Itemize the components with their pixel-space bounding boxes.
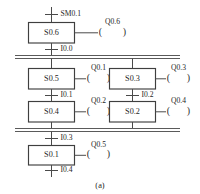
state-label-s06: S0.6 <box>44 28 59 37</box>
state-label-s02: S0.2 <box>125 107 140 116</box>
transition-i02: I0.2 <box>126 89 154 102</box>
state-block-s01: S0.1 ( ) Q0.5 <box>29 140 111 165</box>
coil-label-q04: Q0.4 <box>171 96 186 105</box>
coil-label-q02: Q0.2 <box>91 96 106 105</box>
coil-label-q05: Q0.5 <box>91 140 106 149</box>
state-block-s02: S0.2 ( ) Q0.4 <box>110 96 191 122</box>
coil-open-paren-q04: ( <box>167 105 171 117</box>
transition-sm01: SM0.1 <box>45 7 81 22</box>
transition-label-i04: I0.4 <box>61 165 73 174</box>
transition-label-sm01: SM0.1 <box>61 9 82 18</box>
coil-close-paren-q03: ) <box>187 72 190 84</box>
coil-label-q01: Q0.1 <box>91 63 106 72</box>
transition-i01: I0.1 <box>45 89 73 102</box>
coil-open-paren-q06: ( <box>99 26 103 38</box>
transition-i04: I0.4 <box>45 165 73 177</box>
coil-open-paren-q01: ( <box>87 72 91 84</box>
parallel-convergence-bar <box>15 122 180 132</box>
transition-label-i00: I0.0 <box>61 44 73 53</box>
state-label-s05: S0.5 <box>44 74 59 83</box>
state-label-s04: S0.4 <box>44 107 59 116</box>
state-label-s01: S0.1 <box>44 150 59 159</box>
state-block-s05: S0.5 ( ) Q0.1 <box>29 63 111 89</box>
coil-close-paren-q06: ) <box>123 26 126 38</box>
figure-caption: (a) <box>95 181 105 190</box>
state-label-s03: S0.3 <box>125 74 140 83</box>
transition-label-i02: I0.2 <box>142 90 154 99</box>
coil-close-paren-q05: ) <box>107 148 110 160</box>
transition-label-i03: I0.3 <box>61 133 73 142</box>
coil-label-q06: Q0.6 <box>105 17 120 26</box>
coil-open-paren-q02: ( <box>87 105 91 117</box>
sfc-canvas: SM0.1 S0.6 ( ) Q0.6 I0.0 <box>0 0 200 194</box>
sfc-diagram-page: SM0.1 S0.6 ( ) Q0.6 I0.0 <box>0 0 200 194</box>
coil-close-paren-q04: ) <box>187 105 190 117</box>
state-block-s06: S0.6 ( ) Q0.6 <box>29 17 127 43</box>
transition-i00: I0.0 <box>45 43 73 56</box>
state-block-s04: S0.4 ( ) Q0.2 <box>29 96 111 122</box>
coil-open-paren-q05: ( <box>87 148 91 160</box>
state-block-s03: S0.3 ( ) Q0.3 <box>110 63 191 89</box>
transition-i03: I0.3 <box>45 132 73 146</box>
coil-open-paren-q03: ( <box>167 72 171 84</box>
coil-label-q03: Q0.3 <box>171 63 186 72</box>
transition-label-i01: I0.1 <box>61 90 73 99</box>
